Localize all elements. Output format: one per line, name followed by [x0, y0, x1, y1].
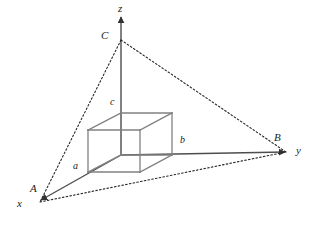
- box-back-face: [121, 113, 172, 155]
- point-label-b: B: [274, 132, 281, 143]
- box-edge-depth-top-left: [88, 113, 121, 130]
- box-depth-edges: [88, 113, 172, 172]
- point-label-a: A: [30, 183, 37, 194]
- intercept-triangle: [40, 40, 286, 202]
- box-edge-depth-bottom-right: [140, 155, 172, 172]
- axes-group: [41, 17, 285, 200]
- geometry-diagram: x y z A B C a b c: [0, 0, 318, 231]
- diagram-canvas: [0, 0, 318, 231]
- box-edge-depth-top-right: [140, 113, 172, 130]
- y-axis-label: y: [296, 145, 301, 156]
- dimension-label-a: a: [73, 161, 78, 171]
- rectangular-box: [88, 113, 172, 172]
- x-axis-label: x: [17, 198, 22, 209]
- point-label-c: C: [101, 30, 108, 41]
- box-edge-depth-bottom-left: [88, 155, 121, 172]
- segment-CB: [121, 40, 286, 152]
- box-front-face: [88, 130, 140, 172]
- dimension-label-c: c: [110, 97, 114, 107]
- dimension-label-b: b: [180, 135, 185, 145]
- z-axis-label: z: [118, 3, 122, 14]
